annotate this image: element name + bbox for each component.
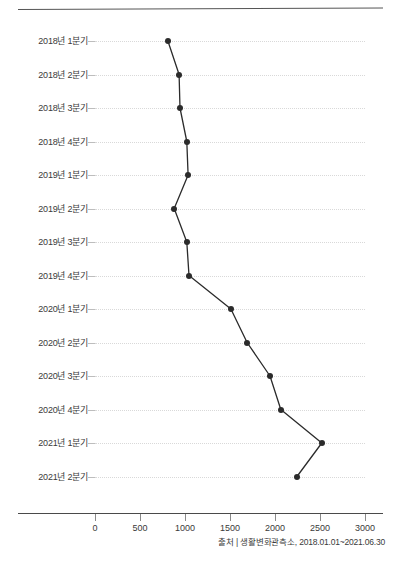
gridline-row [95,75,365,76]
x-axis-label: 3000 [355,523,375,534]
y-axis-label: 2021년 2분기 [4,472,88,482]
gridline-row [95,376,365,377]
data-point[interactable] [171,206,177,212]
x-axis-tick [275,514,276,521]
y-axis-tick [88,108,95,109]
y-axis-label: 2019년 4분기 [4,271,88,281]
data-point[interactable] [176,72,182,78]
x-axis-tick [185,514,186,521]
x-axis-label: 0 [92,523,97,534]
gridline-row [95,410,365,411]
x-axis-label: 2500 [310,523,330,534]
gridline-row [95,477,365,478]
y-axis-tick [88,376,95,377]
y-axis-tick [88,75,95,76]
data-point[interactable] [319,440,325,446]
data-point[interactable] [244,340,250,346]
gridline-row [95,276,365,277]
y-axis-label: 2020년 4분기 [4,405,88,415]
data-point[interactable] [165,38,171,44]
y-axis-label: 2018년 4분기 [4,137,88,147]
gridline-row [95,242,365,243]
y-axis-tick [88,142,95,143]
y-axis-tick [88,175,95,176]
y-axis-label: 2020년 3분기 [4,371,88,381]
data-point[interactable] [228,306,234,312]
x-axis-tick [365,514,366,521]
x-axis-tick [320,514,321,521]
gridline-row [95,343,365,344]
y-axis-tick [88,410,95,411]
gridline-row [95,41,365,42]
x-axis-label: 1500 [220,523,240,534]
y-axis-label: 2018년 3분기 [4,103,88,113]
y-axis-category-labels: 2018년 1분기2018년 2분기2018년 3분기2018년 4분기2019… [0,28,88,498]
source-note: 출처 | 생활변화관측소, 2018.01.01~2021.06.30 [218,537,385,548]
y-axis-tick [88,309,95,310]
y-axis-label: 2021년 1분기 [4,438,88,448]
series-polyline [95,28,365,498]
gridline-row [95,108,365,109]
x-axis-label: 500 [132,523,147,534]
data-point[interactable] [186,273,192,279]
x-axis-label: 1000 [175,523,195,534]
y-axis-tick [88,41,95,42]
gridline-row [95,142,365,143]
x-axis-tick [140,514,141,521]
y-axis-tick [88,477,95,478]
y-axis-tick [88,209,95,210]
y-axis-label: 2018년 1분기 [4,36,88,46]
y-axis-tick [88,276,95,277]
x-axis-ticks: 050010001500200025003000 [95,514,365,536]
gridline-row [95,175,365,176]
gridline-row [95,209,365,210]
x-axis-label: 2000 [265,523,285,534]
quarterly-trend-line-chart: 2018년 1분기2018년 2분기2018년 3분기2018년 4분기2019… [0,0,401,578]
y-axis-label: 2019년 1분기 [4,170,88,180]
data-point[interactable] [184,239,190,245]
y-axis-label: 2020년 2분기 [4,338,88,348]
data-point[interactable] [294,474,300,480]
y-axis-label: 2019년 3분기 [4,237,88,247]
y-axis-tick [88,343,95,344]
y-axis-tick [88,242,95,243]
data-point[interactable] [184,139,190,145]
y-axis-tick [88,443,95,444]
data-point[interactable] [177,105,183,111]
y-axis-label: 2020년 1분기 [4,304,88,314]
x-axis-tick [230,514,231,521]
data-point[interactable] [267,373,273,379]
x-axis-tick [95,514,96,521]
y-axis-label: 2019년 2분기 [4,204,88,214]
plot-area [95,28,365,498]
y-axis-label: 2018년 2분기 [4,70,88,80]
data-point[interactable] [278,407,284,413]
